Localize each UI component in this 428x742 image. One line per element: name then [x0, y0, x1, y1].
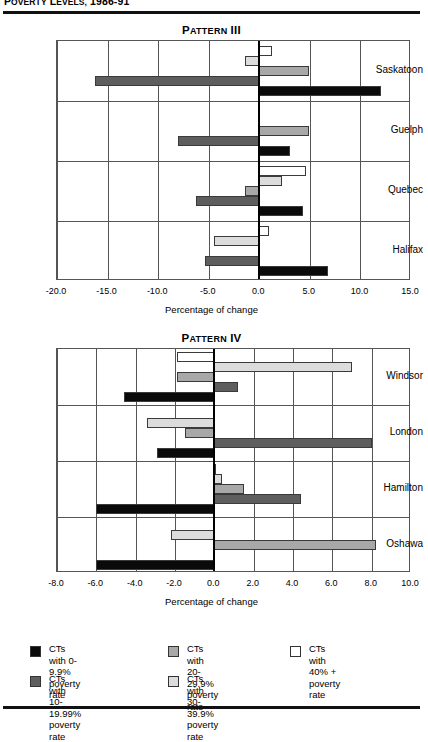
bar-london-series-2 — [185, 428, 215, 438]
x-axis-title-pattern-iv: Percentage of change — [0, 596, 423, 607]
category-label: Quebec — [371, 184, 423, 195]
chart-title-pattern-iii: PATTERN III — [0, 24, 423, 36]
category-label: London — [371, 426, 423, 437]
category-label: Hamilton — [371, 482, 423, 493]
bar-halifax-series-1 — [214, 236, 260, 246]
gridline-horizontal — [57, 461, 409, 462]
bar-quebec-series-1 — [259, 176, 281, 186]
bar-oshawa-series-4 — [96, 560, 214, 570]
legend-divider — [3, 706, 420, 709]
bar-london-series-1 — [147, 418, 214, 428]
x-tick-label: 10.0 — [334, 286, 384, 296]
bar-london-series-4 — [157, 448, 214, 458]
x-tick-label: -20.0 — [31, 286, 81, 296]
legend-swatch-0-9 — [30, 646, 41, 657]
gridline-vertical — [254, 349, 255, 571]
bar-guelph-series-2 — [259, 126, 309, 136]
legend-swatch-40-plus — [290, 646, 301, 657]
bar-windsor-series-3 — [214, 382, 238, 392]
gridline-vertical — [96, 349, 97, 571]
bar-quebec-series-3 — [196, 196, 260, 206]
x-tick-label: -15.0 — [82, 286, 132, 296]
gridline-vertical — [332, 349, 333, 571]
bar-oshawa-series-2 — [214, 540, 375, 550]
zero-axis-line — [213, 349, 215, 571]
legend-swatch-10-19 — [30, 676, 41, 687]
bar-saskatoon-series-2 — [259, 66, 309, 76]
gridline-vertical — [136, 349, 137, 571]
gridline-horizontal — [57, 161, 409, 162]
bar-guelph-series-3 — [178, 136, 259, 146]
category-label: Halifax — [371, 244, 423, 255]
page-header: POVERTY LEVELS, 1986-91 — [0, 0, 423, 16]
legend-swatch-20-29 — [168, 646, 179, 657]
bar-saskatoon-series-1 — [245, 56, 259, 66]
bar-saskatoon-series-0 — [259, 46, 272, 56]
gridline-horizontal — [57, 405, 409, 406]
bar-london-series-3 — [214, 438, 371, 448]
plot-area-pattern-iii — [56, 40, 410, 280]
x-tick-label: -10.0 — [132, 286, 182, 296]
bar-quebec-series-2 — [245, 186, 259, 196]
bar-windsor-series-1 — [214, 362, 352, 372]
gridline-horizontal — [57, 101, 409, 102]
page-title: POVERTY LEVELS, 1986-91 — [4, 0, 129, 7]
category-label: Saskatoon — [371, 64, 423, 75]
bar-windsor-series-0 — [177, 352, 214, 362]
gridline-vertical — [310, 41, 311, 279]
category-label: Oshawa — [371, 538, 423, 549]
gridline-horizontal — [57, 517, 409, 518]
x-tick-label: -5.0 — [183, 286, 233, 296]
x-tick-label: 10.0 — [385, 578, 428, 588]
bar-halifax-series-0 — [259, 226, 269, 236]
zero-axis-line — [258, 41, 260, 279]
bar-oshawa-series-1 — [171, 530, 214, 540]
bar-saskatoon-series-4 — [259, 86, 380, 96]
bar-hamilton-series-3 — [214, 494, 301, 504]
bar-windsor-series-4 — [124, 392, 214, 402]
chart-pattern-iv: PATTERN IV WindsorLondonHamiltonOshawa -… — [0, 332, 423, 612]
header-divider — [3, 11, 420, 14]
bar-saskatoon-series-3 — [95, 76, 259, 86]
bar-halifax-series-3 — [205, 256, 260, 266]
category-label: Guelph — [371, 124, 423, 135]
category-label: Windsor — [371, 370, 423, 381]
bar-hamilton-series-2 — [214, 484, 244, 494]
chart-pattern-iii: PATTERN III SaskatoonGuelphQuebecHalifax… — [0, 24, 423, 324]
gridline-horizontal — [57, 221, 409, 222]
bar-quebec-series-0 — [259, 166, 306, 176]
x-tick-label: 5.0 — [284, 286, 334, 296]
legend-label: CTs with 40% + poverty rate — [309, 643, 340, 701]
bar-hamilton-series-1 — [214, 474, 222, 484]
gridline-vertical — [360, 41, 361, 279]
gridline-vertical — [57, 41, 58, 279]
bar-hamilton-series-4 — [96, 504, 214, 514]
gridline-vertical — [57, 349, 58, 571]
plot-area-pattern-iv — [56, 348, 410, 572]
gridline-vertical — [293, 349, 294, 571]
x-axis-title-pattern-iii: Percentage of change — [0, 304, 423, 315]
bar-guelph-series-4 — [259, 146, 289, 156]
x-tick-label: 15.0 — [385, 286, 428, 296]
x-tick-label: 0.0 — [233, 286, 283, 296]
bar-quebec-series-4 — [259, 206, 302, 216]
chart-title-pattern-iv: PATTERN IV — [0, 332, 423, 344]
bar-windsor-series-2 — [177, 372, 214, 382]
bar-halifax-series-4 — [259, 266, 328, 276]
legend-swatch-30-39 — [168, 676, 179, 687]
